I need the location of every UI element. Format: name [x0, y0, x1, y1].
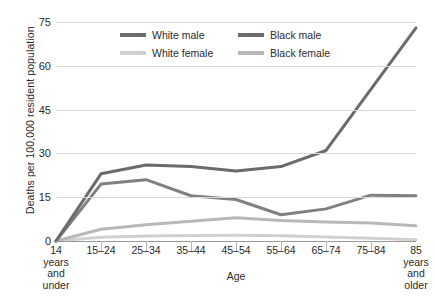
legend-item-white-female[interactable]: White female [120, 47, 238, 59]
legend-label: Black female [270, 47, 330, 59]
legend-label: White male [152, 29, 205, 41]
x-tick-label-7: 75–84 [356, 245, 385, 257]
y-tick-label-60: 60 [39, 60, 51, 72]
legend-swatch-icon [238, 33, 264, 37]
x-tick-label-8: 85yearsandolder [403, 245, 429, 291]
chart-legend: White maleBlack maleWhite femaleBlack fe… [120, 26, 370, 62]
legend-item-white-male[interactable]: White male [120, 29, 238, 41]
legend-swatch-icon [238, 51, 264, 55]
gridline-30 [56, 153, 416, 154]
y-tick-label-15: 15 [39, 191, 51, 203]
x-tick-label-4: 45–54 [221, 245, 250, 257]
x-tick-label-2: 25–34 [131, 245, 160, 257]
x-tick-label-1: 15–24 [86, 245, 115, 257]
gridline-75 [56, 22, 416, 23]
legend-item-black-female[interactable]: Black female [238, 47, 356, 59]
y-axis-title: Deaths per 100,000 resident population [24, 34, 36, 214]
gridline-60 [56, 66, 416, 67]
x-axis-title: Age [56, 270, 416, 282]
x-tick-label-0: 14yearsandunder [43, 245, 70, 291]
series-line-white-male [56, 180, 416, 241]
legend-swatch-icon [120, 33, 146, 37]
x-tick-label-6: 65–74 [311, 245, 340, 257]
x-tick-label-3: 35–44 [176, 245, 205, 257]
y-tick-label-45: 45 [39, 104, 51, 116]
y-tick-label-75: 75 [39, 16, 51, 28]
y-tick-label-30: 30 [39, 147, 51, 159]
legend-label: White female [152, 47, 213, 59]
x-tick-label-5: 55–64 [266, 245, 295, 257]
line-chart: Deaths per 100,000 resident population 0… [0, 0, 435, 308]
legend-swatch-icon [120, 51, 146, 55]
legend-item-black-male[interactable]: Black male [238, 29, 356, 41]
gridline-45 [56, 110, 416, 111]
gridline-15 [56, 197, 416, 198]
legend-label: Black male [270, 29, 321, 41]
